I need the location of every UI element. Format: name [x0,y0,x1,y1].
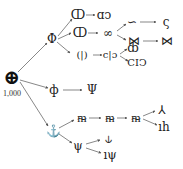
symbol-node-c2b: ıψ [103,149,116,161]
symbol-node-a1: ↀ [71,9,85,21]
symbol-node-a: Φ [47,33,57,45]
symbol-node-a2: ↀ [73,27,87,39]
root-value-label: 1,000 [3,89,21,98]
symbol-node-a1b: ɑↄ [97,9,111,21]
symbol-node-c1c2: ıh [158,121,170,133]
symbol-node-b1: Ψ [87,84,98,96]
symbol-node-a3b2: CIↃ [127,58,146,68]
root-symbol-crossed-circle: ⊕ [4,67,21,87]
arrow-edge [117,24,126,31]
symbol-node-c2: ψ [73,140,82,152]
arrow-edge [143,119,157,125]
arrow-edge [18,43,47,72]
symbol-node-b: ф [49,84,58,96]
symbol-node-a2b2b: ⋈ [161,35,173,47]
arrow-edge [59,120,74,128]
symbol-derivation-diagram: ⊕ 1,000 Φф⚓ↀɑↄↀ∞∽ς⋈⋈(|)c|ɔȸCIↃΨᵯᵯᵯ⅄ıhψ⫝ı… [0,0,183,169]
symbol-node-a3: (|) [76,50,87,60]
arrow-edge [20,80,48,88]
symbol-node-a2b1: ∽ [127,16,137,28]
arrow-edge [117,35,126,40]
symbol-node-a3b: c|ɔ [103,50,118,60]
arrow-edge [86,140,100,144]
symbol-node-a3b1: ȸ [127,42,139,54]
symbol-node-c2a: ⫝ [105,133,112,145]
arrow-edge [143,111,155,116]
symbol-node-c1c1: ⅄ [158,104,165,116]
symbol-node-c1c: ᵯ [131,112,140,124]
arrow-edge [20,82,48,126]
symbol-node-a2b: ∞ [103,27,113,39]
symbol-node-c: ⚓ [46,125,61,137]
symbol-node-c1b: ᵯ [105,112,114,124]
arrow-edge [120,49,127,54]
arrow-edge [59,134,72,143]
symbol-node-a2b1b: ς [163,16,170,28]
arrow-edge [86,148,101,153]
symbol-node-c1: ᵯ [77,112,86,124]
arrow-edge [57,42,70,53]
